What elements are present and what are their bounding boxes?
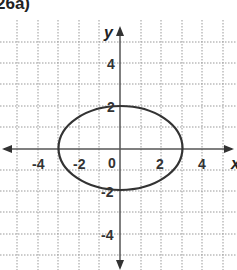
tick-x--4: -4 — [32, 156, 45, 172]
arrow-up-icon — [116, 26, 124, 36]
tick-y--2: -2 — [101, 184, 114, 200]
y-axis-label: y — [103, 24, 114, 41]
coordinate-plane: y x -4 -2 0 2 4 4 2 -2 -4 — [0, 0, 237, 270]
arrow-down-icon — [116, 260, 124, 270]
x-axis-label: x — [230, 155, 237, 172]
arrow-right-icon — [224, 145, 234, 153]
tick-x--2: -2 — [73, 156, 86, 172]
tick-y--4: -4 — [101, 227, 114, 243]
grid — [0, 20, 237, 270]
tick-x-2: 2 — [156, 156, 164, 172]
tick-y-2: 2 — [107, 99, 115, 115]
arrow-left-icon — [2, 145, 12, 153]
tick-x-4: 4 — [198, 156, 206, 172]
tick-y-4: 4 — [107, 56, 115, 72]
tick-x-0: 0 — [108, 155, 116, 171]
